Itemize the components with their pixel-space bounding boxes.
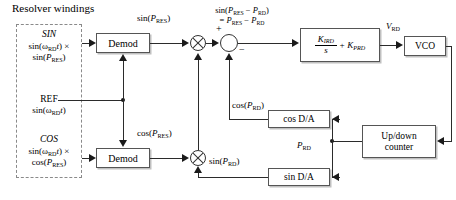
cos-winding-name: COS — [16, 134, 82, 145]
arrow-into-sin-dac — [332, 173, 339, 181]
sin-winding-name: SIN — [16, 29, 82, 40]
signal-cos-prd: cos(PRD) — [232, 100, 264, 110]
arrow-into-summer-minus — [225, 53, 233, 60]
wire-ref-up — [123, 61, 124, 100]
ref-winding-expr: sin(ωRDt) — [14, 105, 84, 115]
cos-dac-block[interactable]: cos D/A — [268, 110, 330, 128]
demod-top-label: Demod — [108, 38, 137, 49]
wire-demod-bottom-to-multiplier — [150, 158, 182, 159]
arrow-ref-to-demod-top — [119, 54, 127, 61]
wire-vco-down — [451, 46, 452, 141]
pi-proportional-term: + KPRD — [339, 41, 365, 51]
demod-bottom-block[interactable]: Demod — [96, 148, 150, 168]
signal-v-rd: VRD — [386, 21, 400, 31]
bottom-multiplier — [190, 150, 206, 166]
vco-block[interactable]: VCO — [404, 36, 446, 56]
signal-error-line2: = PRES − PRD — [196, 16, 288, 26]
pi-numerator: KIRD — [315, 35, 337, 46]
summing-junction — [220, 34, 238, 52]
sin-winding-expr-1: sin(ωRDt) × — [14, 41, 84, 51]
wire-sin-dac-to-multiplier — [198, 173, 199, 177]
wire-prd-down — [332, 141, 333, 177]
demod-bottom-label: Demod — [108, 153, 137, 164]
signal-p-rd: PRD — [297, 140, 311, 150]
arrow-into-top-multiplier-vert — [194, 53, 202, 60]
block-diagram-canvas: Resolver windings SIN sin(ωRDt) × sin(PR… — [0, 0, 456, 200]
cos-dac-label: cos D/A — [283, 114, 314, 124]
pi-denominator: s — [315, 46, 337, 56]
wire-sin-to-demod — [82, 43, 89, 44]
sin-dac-label: sin D/A — [284, 172, 314, 182]
arrow-into-vco — [396, 41, 403, 49]
arrow-cos-to-demod — [89, 154, 96, 162]
arrow-into-compensator — [292, 39, 299, 47]
sin-winding-expr-2: sin(PRES) — [14, 52, 84, 62]
wire-counter-to-prd-bus — [332, 141, 362, 142]
arrow-sin-to-demod — [89, 39, 96, 47]
arrow-into-counter — [437, 137, 444, 145]
cos-winding-expr-2: cos(PRES) — [14, 157, 84, 167]
wire-ref-horizontal — [58, 100, 123, 101]
wire-vco-to-counter — [444, 141, 452, 142]
arrow-into-summer — [212, 39, 219, 47]
wire-cos-dac-out — [229, 119, 268, 120]
arrow-into-bottom-multiplier — [182, 154, 189, 162]
wire-ref-down — [123, 100, 124, 140]
summer-minus-sign: − — [239, 44, 245, 55]
wire-cos-dac-to-summer — [229, 60, 230, 119]
up-down-counter-block[interactable]: Up/down counter — [362, 125, 436, 158]
wire-sin-dac-out — [198, 177, 268, 178]
pi-compensator-expression: KIRD s + KPRD — [315, 35, 365, 56]
wire-demod-top-to-multiplier — [150, 43, 182, 44]
pi-compensator-block[interactable]: KIRD s + KPRD — [300, 28, 380, 62]
counter-label: Up/down counter — [381, 131, 416, 152]
arrow-ref-to-demod-bottom — [119, 140, 127, 147]
demod-top-block[interactable]: Demod — [96, 33, 150, 53]
cos-winding-expr-1: sin(ωRDt) × — [14, 146, 84, 156]
signal-sin-pres: sin(PRES) — [137, 13, 170, 23]
top-multiplier — [190, 35, 206, 51]
arrow-into-cos-dac — [332, 115, 339, 123]
wire-bottom-mult-up — [198, 60, 199, 150]
counter-label-line1: Up/down — [381, 131, 416, 141]
wire-cos-to-demod — [82, 158, 89, 159]
summer-plus-sign: + — [216, 23, 222, 34]
wire-summer-to-compensator — [238, 43, 292, 44]
arrow-into-bottom-multiplier-vert — [194, 166, 202, 173]
signal-sin-prd: sin(PRD) — [209, 156, 240, 166]
signal-cos-pres: cos(PRES) — [137, 128, 172, 138]
sin-dac-block[interactable]: sin D/A — [268, 168, 330, 186]
vco-label: VCO — [415, 41, 435, 51]
counter-label-line2: counter — [381, 142, 416, 152]
arrow-into-top-multiplier — [182, 39, 189, 47]
wire-compensator-to-vco — [380, 45, 396, 46]
diagram-title: Resolver windings — [12, 2, 94, 14]
